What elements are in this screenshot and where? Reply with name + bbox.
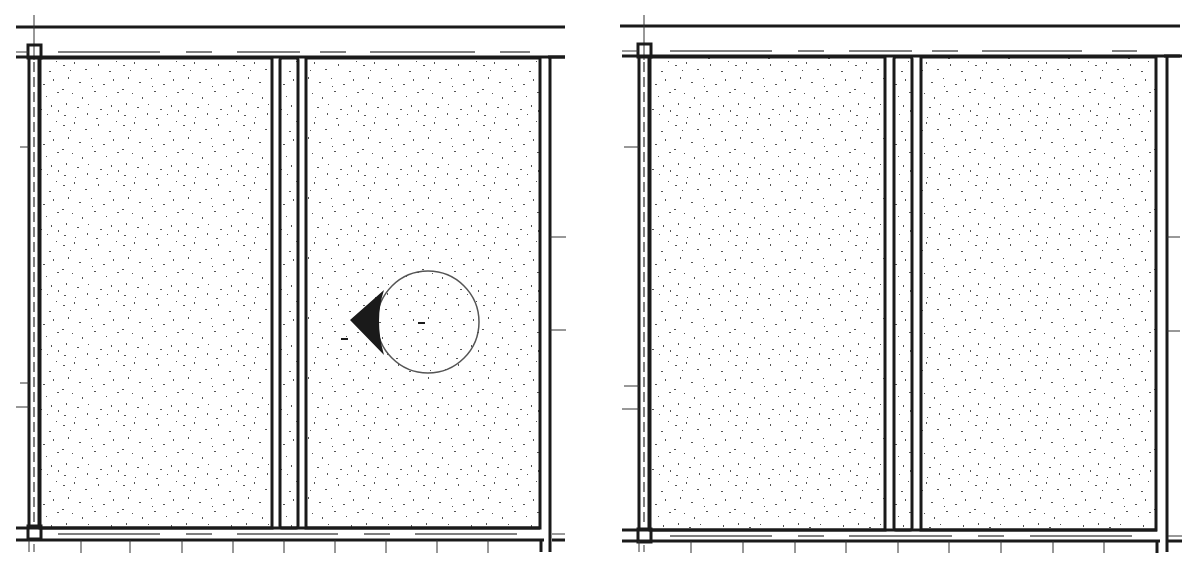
concrete-panel-1 [650, 57, 885, 530]
joint-strip [894, 57, 912, 530]
plan-panel-right [620, 15, 1182, 553]
bottom-ticks [639, 541, 1104, 553]
joint-strip [280, 58, 298, 528]
concrete-panel-2 [921, 57, 1156, 530]
bottom-ticks [29, 540, 488, 553]
plan-panel-left [16, 15, 566, 553]
concrete-panel-1 [40, 58, 272, 528]
concrete-panel-2 [306, 58, 540, 528]
